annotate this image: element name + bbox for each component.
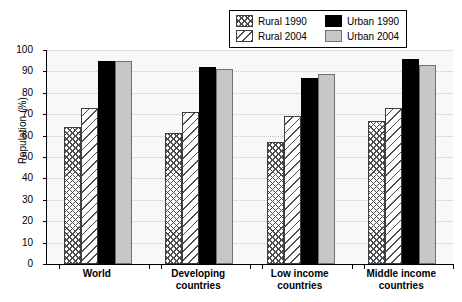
x-axis-category-label: World — [46, 268, 148, 291]
bar-urban2004 — [419, 65, 436, 264]
x-axis-category-line: World — [46, 268, 148, 280]
bar-set — [149, 50, 251, 264]
y-tick-mark — [43, 221, 47, 222]
bar-rural1990 — [368, 121, 385, 264]
y-tick-label: 30 — [3, 194, 33, 205]
y-tick-label: 90 — [3, 65, 33, 76]
x-axis-category-line: Low income — [249, 268, 351, 280]
x-tick-mark — [453, 264, 454, 269]
plot-area: 0102030405060708090100 — [46, 50, 453, 265]
bar-rural2004 — [81, 108, 98, 264]
legend-swatch-rural2004 — [236, 30, 253, 42]
y-tick-label: 10 — [3, 237, 33, 248]
bar-group — [250, 50, 352, 264]
legend-swatch-urban2004 — [325, 30, 342, 42]
bar-group — [352, 50, 454, 264]
x-axis-category-line: countries — [249, 280, 351, 292]
bar-urban1990 — [98, 61, 115, 264]
y-tick-label: 50 — [3, 151, 33, 162]
bar-urban1990 — [199, 67, 216, 264]
legend-label: Rural 1990 — [258, 16, 307, 27]
bar-group — [149, 50, 251, 264]
y-tick-label: 20 — [3, 215, 33, 226]
x-axis-category-label: Developingcountries — [148, 268, 250, 291]
bar-set — [352, 50, 454, 264]
bar-urban2004 — [115, 61, 132, 264]
y-tick-label: 80 — [3, 87, 33, 98]
bar-groups — [47, 50, 453, 264]
legend-label: Rural 2004 — [258, 31, 307, 42]
y-tick-mark — [43, 243, 47, 244]
legend-item: Rural 1990 — [236, 15, 307, 27]
bar-set — [47, 50, 149, 264]
bar-group — [47, 50, 149, 264]
x-axis-labels: WorldDevelopingcountriesLow incomecountr… — [46, 268, 452, 291]
y-tick-mark — [43, 157, 47, 158]
legend-label: Urban 1990 — [347, 16, 399, 27]
legend-swatch-rural1990 — [236, 15, 253, 27]
bar-rural2004 — [284, 116, 301, 264]
y-tick-label: 60 — [3, 130, 33, 141]
x-axis-category-label: Middle incomecountries — [351, 268, 453, 291]
bar-rural1990 — [64, 127, 81, 264]
y-tick-mark — [43, 114, 47, 115]
chart-legend: Rural 1990Urban 1990Rural 2004Urban 2004 — [229, 10, 407, 48]
y-tick-mark — [43, 93, 47, 94]
y-tick-label: 40 — [3, 172, 33, 183]
bar-rural1990 — [267, 142, 284, 264]
y-tick-label: 0 — [3, 258, 33, 269]
x-axis-category-line: Middle income — [351, 268, 453, 280]
y-tick-mark — [43, 50, 47, 51]
bar-rural2004 — [385, 108, 402, 264]
legend-label: Urban 2004 — [347, 31, 399, 42]
bar-urban2004 — [216, 69, 233, 264]
x-axis-category-line: Developing — [148, 268, 250, 280]
bar-urban2004 — [318, 74, 335, 264]
legend-item: Rural 2004 — [236, 30, 307, 42]
bar-rural2004 — [182, 112, 199, 264]
bar-chart: Population (%) 0102030405060708090100 Wo… — [0, 0, 462, 302]
bar-urban1990 — [402, 59, 419, 264]
y-tick-mark — [43, 71, 47, 72]
y-tick-mark — [43, 264, 47, 265]
bar-rural1990 — [165, 133, 182, 264]
x-axis-category-line: countries — [351, 280, 453, 292]
y-tick-label: 100 — [3, 44, 33, 55]
y-tick-label: 70 — [3, 108, 33, 119]
legend-item: Urban 2004 — [325, 30, 399, 42]
y-tick-mark — [43, 200, 47, 201]
y-tick-mark — [43, 178, 47, 179]
x-axis-category-line: countries — [148, 280, 250, 292]
legend-swatch-urban1990 — [325, 15, 342, 27]
legend-item: Urban 1990 — [325, 15, 399, 27]
x-axis-category-label: Low incomecountries — [249, 268, 351, 291]
bar-urban1990 — [301, 78, 318, 264]
bar-set — [250, 50, 352, 264]
y-tick-mark — [43, 136, 47, 137]
